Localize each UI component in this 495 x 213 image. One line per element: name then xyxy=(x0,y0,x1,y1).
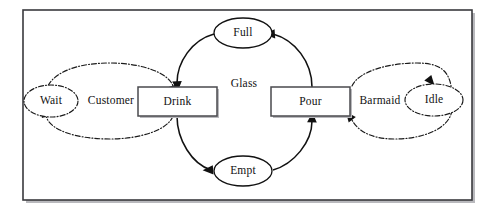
petri-net-diagram: Full Empt Wait Idle Drink Pour Customer … xyxy=(0,0,495,213)
place-empt-label: Empt xyxy=(230,164,256,177)
place-idle[interactable]: Idle xyxy=(405,84,463,116)
place-empt[interactable]: Empt xyxy=(214,156,272,186)
label-glass: Glass xyxy=(231,77,258,89)
diagram-canvas: Full Empt Wait Idle Drink Pour Customer … xyxy=(0,0,495,213)
transition-pour-label: Pour xyxy=(299,95,322,107)
place-wait[interactable]: Wait xyxy=(24,85,78,117)
label-customer: Customer xyxy=(88,94,134,106)
place-full-label: Full xyxy=(233,26,252,38)
transition-pour[interactable]: Pour xyxy=(271,87,352,118)
place-wait-label: Wait xyxy=(40,94,63,106)
transition-drink[interactable]: Drink xyxy=(138,87,219,118)
label-barmaid: Barmaid xyxy=(360,94,401,106)
place-full[interactable]: Full xyxy=(214,18,272,48)
transition-drink-label: Drink xyxy=(164,95,192,107)
place-idle-label: Idle xyxy=(425,93,444,105)
